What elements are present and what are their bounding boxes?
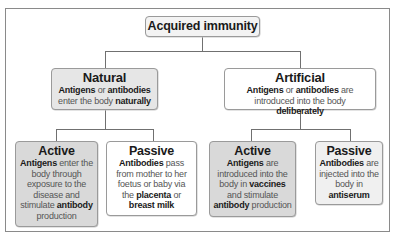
node-acquired-immunity: Acquired immunity bbox=[145, 16, 260, 37]
connector-artificial-horizontal bbox=[251, 129, 351, 130]
connector-root-down bbox=[202, 37, 203, 52]
connector-to-artificial-passive bbox=[350, 129, 351, 141]
node-artificial-active: Active Antigens are introduced into the … bbox=[209, 141, 296, 217]
node-description: Antibodies are injected into the body in… bbox=[316, 158, 382, 200]
node-natural: Natural Antigens or antibodies enter the… bbox=[51, 68, 158, 110]
node-title: Active bbox=[16, 142, 97, 158]
node-natural-passive: Passive Antibodies pass from mother to h… bbox=[106, 141, 197, 216]
connector-to-natural-active bbox=[56, 129, 57, 141]
node-description: Antigens enter the body through exposure… bbox=[16, 158, 97, 222]
connector-to-artificial-active bbox=[251, 129, 252, 141]
connector-to-natural-passive bbox=[153, 129, 154, 141]
node-natural-active: Active Antigens enter the body through e… bbox=[15, 141, 98, 227]
connector-natural-horizontal bbox=[56, 129, 154, 130]
node-title: Natural bbox=[52, 69, 157, 85]
node-artificial-passive: Passive Antibodies are injected into the… bbox=[315, 141, 383, 205]
connector-to-natural bbox=[105, 51, 106, 68]
node-description: Antibodies pass from mother to her foetu… bbox=[107, 158, 196, 211]
node-title: Passive bbox=[107, 142, 196, 158]
node-title: Acquired immunity bbox=[146, 19, 259, 34]
node-title: Artificial bbox=[225, 69, 375, 85]
node-description: Antigens are introduced into the body in… bbox=[210, 158, 295, 211]
node-artificial: Artificial Antigens or antibodies are in… bbox=[224, 68, 376, 110]
connector-level1-horizontal bbox=[105, 51, 301, 52]
connector-to-artificial bbox=[300, 51, 301, 68]
node-description: Antigens or antibodies enter the body na… bbox=[52, 85, 157, 106]
node-title: Passive bbox=[316, 142, 382, 158]
connector-natural-down bbox=[105, 110, 106, 130]
node-title: Active bbox=[210, 142, 295, 158]
node-description: Antigens or antibodies are introduced in… bbox=[225, 85, 375, 117]
